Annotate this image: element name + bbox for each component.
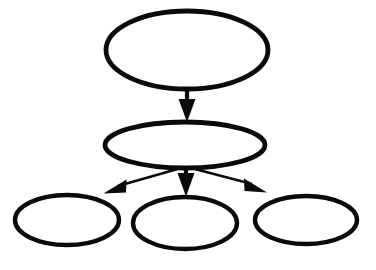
diagram-svg (0, 0, 376, 270)
diagram-canvas (0, 0, 376, 270)
node-mid[interactable] (105, 122, 265, 168)
node-root[interactable] (106, 11, 268, 89)
node-leaf-right[interactable] (255, 196, 357, 244)
node-leaf-right-shape[interactable] (255, 196, 357, 244)
node-leaf-left[interactable] (15, 195, 119, 245)
node-leaf-left-shape[interactable] (15, 195, 119, 245)
node-leaf-center[interactable] (133, 197, 237, 249)
node-leaf-center-shape[interactable] (133, 197, 237, 249)
node-root-shape[interactable] (106, 11, 268, 89)
node-mid-shape[interactable] (105, 122, 265, 168)
